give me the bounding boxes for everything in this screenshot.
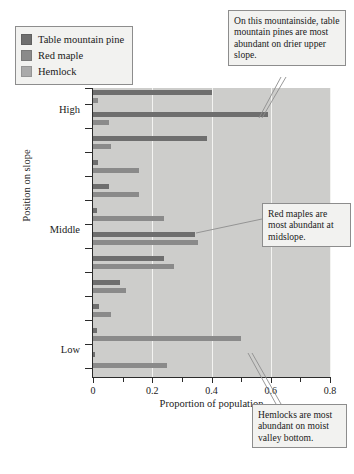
- bar: [93, 136, 207, 141]
- x-axis-minor-tick: [300, 378, 301, 382]
- x-axis-minor-tick: [241, 378, 242, 382]
- bar: [93, 144, 111, 149]
- bar: [93, 192, 139, 197]
- legend-label-table-mountain-pine: Table mountain pine: [38, 34, 124, 45]
- y-axis-tick: [85, 296, 92, 297]
- x-axis-tick: [330, 378, 331, 383]
- bar: [93, 363, 167, 368]
- legend-item: Hemlock: [21, 63, 127, 79]
- y-axis-tick: [85, 248, 92, 249]
- y-axis-tick: [85, 88, 92, 89]
- legend-swatch-table-mountain-pine: [21, 34, 32, 45]
- x-axis-minor-tick: [123, 378, 124, 382]
- y-axis-tick: [85, 104, 92, 105]
- chart-figure: Table mountain pine Red maple Hemlock Hi…: [0, 0, 354, 474]
- bar: [93, 256, 164, 261]
- x-axis-ticklabel: 0.8: [315, 385, 345, 396]
- bar: [93, 112, 268, 117]
- bar: [93, 328, 97, 333]
- bar: [93, 312, 111, 317]
- bar: [93, 120, 109, 125]
- x-axis-minor-tick: [182, 378, 183, 382]
- y-axis-tick: [85, 200, 92, 201]
- bar: [93, 160, 98, 165]
- y-axis-line: [92, 88, 93, 378]
- y-axis-title: Position on slope: [21, 116, 32, 256]
- y-axis-tick: [85, 344, 92, 345]
- y-axis-tick: [85, 272, 92, 273]
- legend-swatch-hemlock: [21, 66, 32, 77]
- y-axis-tick: [85, 368, 92, 369]
- bar: [93, 208, 97, 213]
- bar: [93, 352, 95, 357]
- bar: [93, 184, 109, 189]
- y-axis-tick: [85, 176, 92, 177]
- bar: [93, 304, 99, 309]
- bar: [93, 168, 139, 173]
- bar: [93, 288, 126, 293]
- x-axis-ticklabel: 0: [78, 385, 108, 396]
- bar: [93, 98, 98, 103]
- x-axis-tick: [212, 378, 213, 383]
- bar: [93, 240, 198, 245]
- gridline: [212, 88, 213, 377]
- y-axis-tick: [85, 320, 92, 321]
- legend-item: Red maple: [21, 47, 127, 63]
- bar: [93, 216, 164, 221]
- y-axis-ticklabel: Low: [30, 344, 80, 355]
- y-axis-tick: [85, 224, 92, 225]
- bar: [93, 280, 120, 285]
- callout-hemlock: Hemlocks are most abundant on moist vall…: [252, 404, 347, 448]
- chart-legend: Table mountain pine Red maple Hemlock: [15, 26, 133, 85]
- legend-swatch-red-maple: [21, 50, 32, 61]
- bar: [93, 264, 174, 269]
- bar: [93, 232, 195, 237]
- callout-red-maple: Red maples are most abundant at midslope…: [262, 203, 351, 247]
- y-axis-ticklabel: High: [30, 104, 80, 115]
- bar: [93, 90, 212, 95]
- y-axis-tick: [85, 128, 92, 129]
- legend-label-red-maple: Red maple: [38, 50, 83, 61]
- x-axis-tick: [93, 378, 94, 383]
- legend-item: Table mountain pine: [21, 31, 127, 47]
- x-axis-tick: [271, 378, 272, 383]
- callout-table-mountain-pine: On this mountainside, table mountain pin…: [228, 10, 346, 66]
- y-axis-ticklabel: Middle: [30, 224, 80, 235]
- x-axis-tick: [152, 378, 153, 383]
- y-axis-tick: [85, 152, 92, 153]
- legend-label-hemlock: Hemlock: [38, 66, 77, 77]
- x-axis-ticklabel: 0.4: [197, 385, 227, 396]
- bar: [93, 336, 241, 341]
- x-axis-ticklabel: 0.6: [256, 385, 286, 396]
- x-axis-ticklabel: 0.2: [137, 385, 167, 396]
